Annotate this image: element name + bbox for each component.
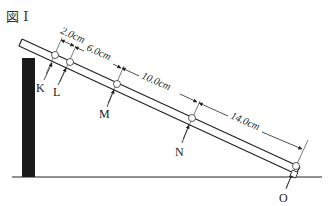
mark-l — [67, 59, 74, 66]
mark-o — [293, 163, 300, 170]
point-label-o: O — [279, 191, 288, 205]
mark-k — [52, 52, 59, 59]
point-label-l: L — [53, 85, 60, 99]
point-label-m: M — [99, 107, 110, 121]
mark-m — [114, 81, 121, 88]
inclined-plane-diagram: 図 I — [0, 0, 328, 206]
mark-n — [189, 115, 196, 122]
support-post — [22, 58, 35, 177]
dimension-label-kl: 2.0cm — [59, 25, 87, 46]
ramp — [19, 39, 300, 174]
dimension-label-no: 14.0cm — [229, 110, 262, 133]
figure-title: 図 I — [6, 9, 28, 24]
dimension-label-lm: 6.0cm — [85, 42, 113, 63]
point-label-k: K — [36, 81, 45, 95]
point-label-n: N — [175, 145, 184, 159]
dimension-label-mn: 10.0cm — [140, 70, 173, 93]
reference-lines — [46, 38, 308, 188]
